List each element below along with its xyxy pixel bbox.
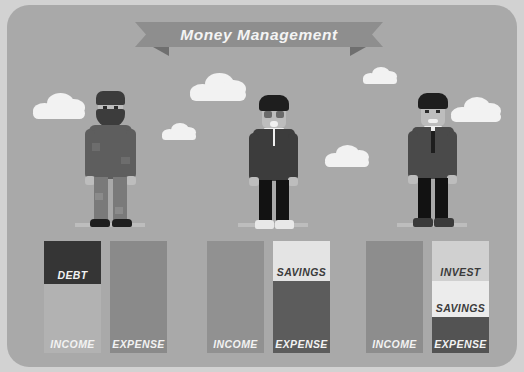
bar-segment-income[interactable]: INCOME [366,241,423,353]
bar-segment-expense[interactable]: EXPENSE [110,241,167,353]
bar-segment-label: EXPENSE [275,339,327,354]
bar-segment-savings[interactable]: SAVINGS [432,281,489,317]
bar-segment-income[interactable]: INCOME [207,241,264,353]
bar-group-middle-class-man: INCOMEEXPENSESAVINGS [207,5,347,367]
bar-segment-income[interactable]: INCOME [44,284,101,353]
bar-segment-label: INVEST [440,267,480,282]
bar-segment-label: EXPENSE [434,339,486,354]
bar-segment-debt[interactable]: DEBT [44,241,101,284]
bar-segment-label: INCOME [50,339,94,354]
bar-segment-invest[interactable]: INVEST [432,241,489,281]
bar-segment-expense[interactable]: EXPENSE [273,281,330,353]
scene-panel: Money Management INCOMEDEBTEXPENSEINCOME… [7,5,517,367]
bar-segment-label: SAVINGS [277,267,326,282]
bar-segment-label: INCOME [372,339,416,354]
illustration-canvas: Money Management INCOMEDEBTEXPENSEINCOME… [0,0,524,372]
ribbon-fold-right [350,47,366,56]
bar-group-businessman: INCOMEEXPENSESAVINGSINVEST [366,5,506,367]
bar-segment-expense[interactable]: EXPENSE [432,317,489,353]
bar-segment-savings[interactable]: SAVINGS [273,241,330,281]
bar-group-poor-man: INCOMEDEBTEXPENSE [44,5,184,367]
bar-segment-label: EXPENSE [112,339,164,354]
bar-segment-label: SAVINGS [436,303,485,318]
bar-segment-label: INCOME [213,339,257,354]
bar-segment-label: DEBT [57,270,87,285]
